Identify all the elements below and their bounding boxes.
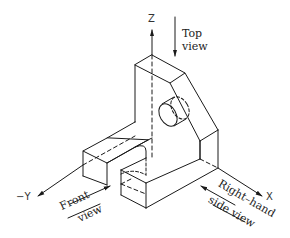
boss-hole bbox=[155, 94, 193, 130]
top-view-label-line2: view bbox=[182, 41, 208, 52]
upright-block bbox=[135, 55, 218, 168]
base-top-edges bbox=[135, 122, 200, 160]
x-axis-label: X bbox=[266, 192, 273, 202]
top-view-label-line1: Top bbox=[182, 28, 202, 39]
z-axis-label: Z bbox=[148, 14, 155, 24]
base-block bbox=[83, 122, 218, 208]
neg-y-axis-label: −Y bbox=[16, 192, 31, 202]
